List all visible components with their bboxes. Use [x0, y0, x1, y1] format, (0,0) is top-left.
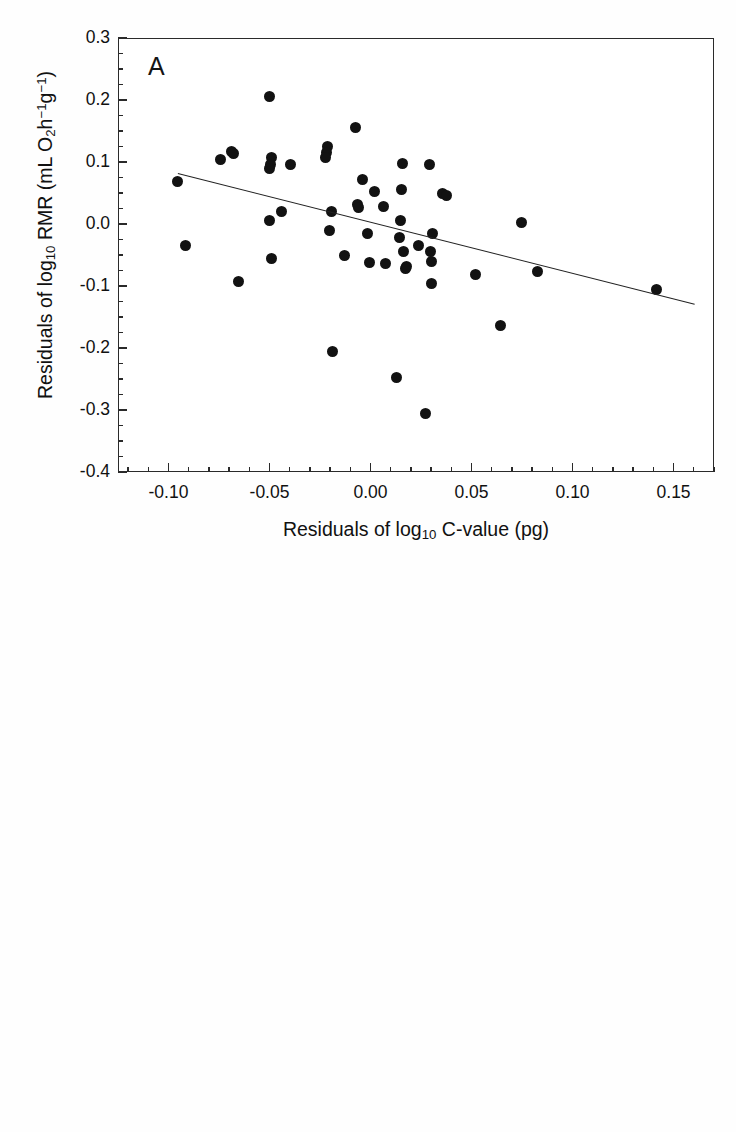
- x-tick-minor: [430, 467, 431, 472]
- y-tick-minor: [118, 456, 123, 457]
- y-tick-minor: [118, 332, 123, 333]
- scatter-point: [441, 190, 452, 201]
- scatter-point: [215, 154, 226, 165]
- scatter-point: [424, 159, 435, 170]
- x-tick-minor: [612, 467, 613, 472]
- scatter-point: [362, 228, 373, 239]
- scatter-point: [264, 163, 275, 174]
- scatter-point: [172, 176, 183, 187]
- scatter-point: [233, 276, 244, 287]
- x-tick-minor: [552, 467, 553, 472]
- x-tick-minor: [693, 467, 694, 472]
- panel-b-bar-chart: B 2.22.01.81.61.41.21.0 (3)(8)(12)(24) F…: [0, 556, 736, 1132]
- x-tick-minor: [208, 467, 209, 472]
- x-tick-minor: [713, 467, 714, 472]
- y-tick-minor: [118, 130, 123, 131]
- x-tick-label: -0.10: [119, 482, 219, 503]
- x-tick-major: [168, 463, 169, 472]
- x-tick-minor: [491, 467, 492, 472]
- x-tick-label: -0.05: [220, 482, 320, 503]
- y-axis-title-text: Residuals of log10 RMR (mL O2h−1g−1): [34, 71, 56, 399]
- y-tick-major: [118, 37, 127, 38]
- y-tick-minor: [118, 394, 123, 395]
- x-tick-minor: [390, 467, 391, 472]
- scatter-point: [516, 217, 527, 228]
- x-tick-label: 0.10: [523, 482, 623, 503]
- x-tick-minor: [249, 467, 250, 472]
- x-tick-minor: [228, 467, 229, 472]
- y-tick-minor: [118, 301, 123, 302]
- scatter-point: [394, 232, 405, 243]
- x-tick-major: [269, 463, 270, 472]
- x-tick-minor: [410, 467, 411, 472]
- scatter-point: [420, 408, 431, 419]
- x-tick-minor: [531, 467, 532, 472]
- y-tick-minor: [118, 53, 123, 54]
- panel-a-letter: A: [148, 52, 165, 81]
- y-tick-minor: [118, 84, 123, 85]
- y-tick-minor: [118, 146, 123, 147]
- x-tick-major: [471, 463, 472, 472]
- y-tick-major: [118, 347, 127, 348]
- y-tick-minor: [118, 115, 123, 116]
- scatter-point: [264, 215, 275, 226]
- x-tick-minor: [329, 467, 330, 472]
- y-tick-minor: [118, 239, 123, 240]
- x-tick-minor: [451, 467, 452, 472]
- y-tick-minor: [118, 208, 123, 209]
- x-tick-minor: [511, 467, 512, 472]
- x-tick-major: [572, 463, 573, 472]
- scatter-point: [327, 346, 338, 357]
- scatter-point: [532, 266, 543, 277]
- x-tick-minor: [653, 467, 654, 472]
- x-tick-major: [370, 463, 371, 472]
- scatter-point: [426, 256, 437, 267]
- y-tick-major: [118, 161, 127, 162]
- x-tick-label: 0.00: [321, 482, 421, 503]
- y-tick-major: [118, 285, 127, 286]
- figure-container: A 0.30.20.10.0-0.1-0.2-0.3-0.4 -0.10-0.0…: [0, 0, 736, 1132]
- y-tick-minor: [118, 425, 123, 426]
- x-tick-minor: [350, 467, 351, 472]
- y-tick-minor: [118, 363, 123, 364]
- panel-a-y-axis-title: Residuals of log10 RMR (mL O2h−1g−1): [34, 0, 58, 470]
- y-tick-major: [118, 223, 127, 224]
- x-tick-minor: [188, 467, 189, 472]
- scatter-point: [391, 372, 402, 383]
- x-tick-minor: [592, 467, 593, 472]
- scatter-point: [413, 240, 424, 251]
- y-tick-major: [118, 471, 127, 472]
- scatter-point: [339, 250, 350, 261]
- x-tick-minor: [632, 467, 633, 472]
- scatter-point: [320, 152, 331, 163]
- x-tick-minor: [127, 467, 128, 472]
- y-tick-minor: [118, 440, 123, 441]
- y-tick-major: [118, 409, 127, 410]
- x-tick-minor: [309, 467, 310, 472]
- scatter-point: [350, 122, 361, 133]
- y-tick-minor: [118, 68, 123, 69]
- scatter-point: [369, 186, 380, 197]
- y-tick-minor: [118, 378, 123, 379]
- y-tick-minor: [118, 177, 123, 178]
- y-tick-minor: [118, 192, 123, 193]
- y-tick-minor: [118, 254, 123, 255]
- scatter-point: [324, 225, 335, 236]
- scatter-point: [357, 174, 368, 185]
- x-tick-minor: [289, 467, 290, 472]
- scatter-point: [228, 148, 239, 159]
- x-axis-title-text: Residuals of log10 C-value (pg): [283, 518, 549, 540]
- panel-a-plot-frame: [118, 38, 714, 472]
- y-tick-minor: [118, 270, 123, 271]
- x-tick-minor: [148, 467, 149, 472]
- panel-a-scatter: A 0.30.20.10.0-0.1-0.2-0.3-0.4 -0.10-0.0…: [0, 0, 736, 556]
- x-tick-major: [673, 463, 674, 472]
- scatter-point: [364, 257, 375, 268]
- scatter-point: [426, 278, 437, 289]
- y-tick-major: [118, 99, 127, 100]
- x-tick-label: 0.15: [624, 482, 724, 503]
- panel-a-x-axis-title: Residuals of log10 C-value (pg): [118, 518, 714, 542]
- y-tick-minor: [118, 316, 123, 317]
- x-tick-label: 0.05: [422, 482, 522, 503]
